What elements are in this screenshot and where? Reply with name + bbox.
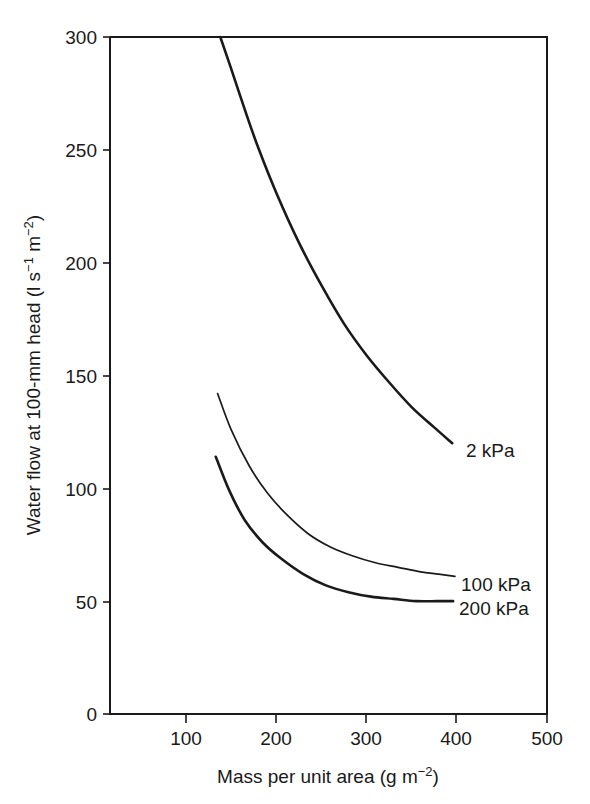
x-axis-title-main: Mass per unit area (g m — [217, 766, 418, 787]
x-axis-title-tail: ) — [433, 766, 439, 787]
y-axis-title-part1: Water flow at 100-mm head (l s — [23, 272, 44, 535]
y-tick-label-250: 250 — [65, 140, 97, 161]
y-axis-title-superscript-2: −2 — [21, 221, 36, 236]
y-axis-tick-labels: 300 250 200 150 100 50 0 — [65, 27, 97, 725]
y-tick-label-0: 0 — [86, 704, 97, 725]
series-labels: 2 kPa 100 kPa 200 kPa — [459, 440, 531, 619]
series-line-200-kpa — [216, 457, 453, 602]
y-tick-label-300: 300 — [65, 27, 97, 48]
x-tick-label-300: 300 — [350, 728, 382, 749]
y-tick-label-100: 100 — [65, 479, 97, 500]
y-tick-label-200: 200 — [65, 253, 97, 274]
data-curves — [216, 37, 455, 601]
y-axis-title-superscript-1: −1 — [21, 257, 36, 272]
y-axis-ticks — [103, 37, 110, 714]
series-label-100-kpa: 100 kPa — [461, 574, 531, 595]
y-tick-label-150: 150 — [65, 366, 97, 387]
x-tick-label-100: 100 — [170, 728, 202, 749]
y-axis-title: Water flow at 100-mm head (l s−1 m−2) — [21, 215, 44, 535]
series-line-100-kpa — [218, 394, 455, 577]
x-axis-title-superscript: −2 — [418, 764, 433, 779]
x-tick-label-400: 400 — [440, 728, 472, 749]
chart-figure: 300 250 200 150 100 50 0 100 200 300 400… — [0, 0, 590, 804]
series-label-2-kpa: 2 kPa — [466, 440, 515, 461]
x-axis-tick-labels: 100 200 300 400 500 — [170, 728, 563, 749]
y-tick-label-50: 50 — [76, 592, 97, 613]
x-tick-label-200: 200 — [260, 728, 292, 749]
x-tick-label-500: 500 — [531, 728, 563, 749]
y-axis-title-part2: m — [23, 236, 44, 257]
series-label-200-kpa: 200 kPa — [459, 598, 529, 619]
x-axis-title: Mass per unit area (g m−2) — [217, 764, 439, 787]
y-axis-title-tail: ) — [23, 215, 44, 221]
x-axis-ticks — [186, 714, 547, 723]
chart-svg: 300 250 200 150 100 50 0 100 200 300 400… — [0, 0, 590, 804]
series-line-2-kpa — [220, 37, 452, 443]
